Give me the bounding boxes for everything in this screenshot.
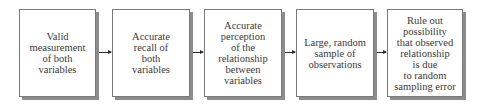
step-box-accurate-perception: Accurate perception of the relationship … — [204, 9, 282, 97]
step-label: Accurate perception of the relationship … — [216, 20, 270, 86]
step-box-valid-measurement: Valid measurement of both variables — [19, 9, 96, 97]
step-box-rule-out-sampling-error: Rule out possibility that observed relat… — [387, 9, 463, 97]
step-label: Valid measurement of both variables — [28, 31, 88, 75]
step-label: Large, random sample of observations — [302, 37, 368, 70]
step-box-random-sample: Large, random sample of observations — [296, 9, 374, 97]
arrow-connector — [193, 52, 203, 53]
arrow-connector — [285, 52, 295, 53]
step-label: Rule out possibility that observed relat… — [392, 15, 458, 92]
arrow-connector — [377, 52, 386, 53]
arrow-connector — [99, 52, 111, 53]
step-box-accurate-recall: Accurate recall of both variables — [112, 9, 190, 97]
step-label: Accurate recall of both variables — [130, 31, 172, 75]
